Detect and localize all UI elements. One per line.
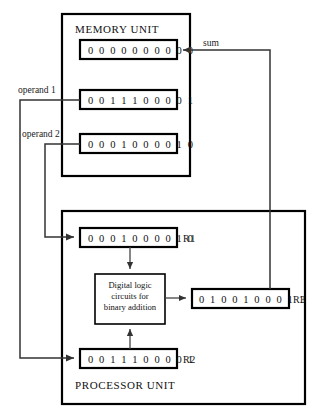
register-r3: 0 1 0 0 1 0 0 0 1 1 R3 [192, 289, 306, 308]
wire-operand1-label: operand 1 [18, 85, 56, 95]
digital-logic-line3: binary addition [104, 302, 157, 312]
register-r2: 0 0 1 1 1 0 0 0 0 1 R2 [80, 349, 196, 368]
wire-operand2-label: operand 2 [22, 129, 60, 139]
register-r1-label: R1 [183, 233, 196, 244]
computer-architecture-diagram: MEMORY UNIT 0 0 0 0 0 0 0 0 0 0 0 0 1 1 … [0, 0, 320, 420]
memory-word-operand1: 0 0 1 1 1 0 0 0 0 1 [80, 90, 195, 109]
processor-unit: PROCESSOR UNIT 0 0 0 1 0 0 0 0 1 0 R1 Di… [62, 211, 306, 404]
digital-logic-line2: circuits for [111, 291, 149, 301]
memory-word-operand2: 0 0 0 1 0 0 0 0 1 0 [80, 134, 195, 153]
digital-logic-unit: Digital logic circuits for binary additi… [95, 274, 165, 324]
processor-unit-title: PROCESSOR UNIT [75, 379, 175, 391]
wire-sum-label: sum [203, 38, 219, 48]
register-r3-value: 0 1 0 0 1 0 0 0 1 1 [199, 294, 306, 305]
register-r1-value: 0 0 0 1 0 0 0 0 1 0 [88, 233, 195, 244]
register-r1: 0 0 0 1 0 0 0 0 1 0 R1 [80, 228, 196, 247]
register-r3-label: R3 [293, 294, 306, 305]
wire-sum [183, 50, 270, 289]
memory-word-operand1-value: 0 0 1 1 1 0 0 0 0 1 [88, 95, 195, 106]
register-r2-label: R2 [183, 354, 196, 365]
digital-logic-line1: Digital logic [108, 280, 151, 290]
memory-word-sum-value: 0 0 0 0 0 0 0 0 0 0 [88, 45, 195, 56]
memory-unit-title: MEMORY UNIT [75, 23, 159, 35]
memory-word-operand2-value: 0 0 0 1 0 0 0 0 1 0 [88, 139, 195, 150]
memory-word-sum: 0 0 0 0 0 0 0 0 0 0 [80, 40, 195, 59]
memory-unit: MEMORY UNIT 0 0 0 0 0 0 0 0 0 0 0 0 1 1 … [62, 14, 195, 176]
register-r2-value: 0 0 1 1 1 0 0 0 0 1 [88, 354, 195, 365]
